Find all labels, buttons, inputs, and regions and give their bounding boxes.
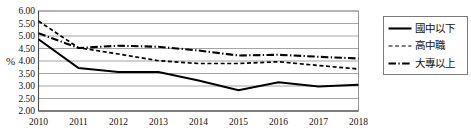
x-axis-tick-label: 2010 [29,117,48,127]
x-axis-tick-label: 2013 [149,117,168,127]
chart-canvas: 2.002.503.003.504.004.505.005.506.00 201… [0,0,471,134]
x-axis-tick-label: 2017 [309,117,328,127]
y-axis-tick-label: 3.00 [18,81,35,91]
y-axis-tick-label: 4.00 [18,56,35,66]
legend-label: 國中以下 [415,22,455,34]
y-axis-tick-label: 4.50 [18,44,35,54]
series-line-dash-dot [39,33,359,58]
x-axis-tick-label: 2014 [189,117,208,127]
y-axis-tick-label: 2.00 [18,106,35,116]
y-axis-tick-label: 5.00 [18,31,35,41]
y-axis-tick-label: 6.00 [18,6,35,16]
legend-label: 大專以上 [415,57,455,69]
x-axis-tick-label: 2016 [269,117,288,127]
line-chart: % 2.002.503.003.504.004.505.005.506.00 2… [0,0,471,134]
data-series-group [39,21,359,90]
y-axis-tick-labels: 2.002.503.003.504.004.505.005.506.00 [18,6,35,116]
gridlines-group [39,11,359,111]
chart-legend: 國中以下高中職大專以上 [384,17,468,75]
y-axis-tick-label: 5.50 [18,19,35,29]
y-axis-tick-label: 3.50 [18,69,35,79]
series-line-solid [39,39,359,90]
y-axis-tick-label: 2.50 [18,94,35,104]
y-axis-unit-label: % [6,56,15,67]
x-axis-tick-label: 2011 [69,117,88,127]
x-axis-tick-label: 2018 [349,117,368,127]
x-axis-tick-label: 2012 [109,117,128,127]
series-line-dashed [39,21,359,69]
x-axis-tick-labels: 201020112012201320142015201620172018 [29,117,368,127]
legend-label: 高中職 [415,39,446,51]
x-axis-tick-label: 2015 [229,117,248,127]
